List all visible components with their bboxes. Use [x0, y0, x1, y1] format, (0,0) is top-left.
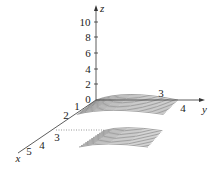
x-tick-3: 3 [54, 131, 60, 143]
z-tick-2: 2 [85, 78, 91, 90]
z-tick-10: 10 [80, 16, 92, 28]
z-axis-label: z [99, 2, 105, 14]
y-axis-label: y [201, 103, 207, 115]
x-tick-2: 2 [63, 109, 69, 121]
x-axis-label: x [15, 152, 21, 164]
x-tick-4: 4 [39, 139, 45, 151]
z-axis: z 0 2 4 6 8 10 [80, 2, 106, 105]
z-tick-4: 4 [85, 63, 91, 75]
surface-plot-3d: z 0 2 4 6 8 10 y 3 4 1 2 3 4 5 x [0, 0, 219, 171]
x-tick-1: 1 [74, 100, 80, 112]
z-tick-6: 6 [85, 47, 91, 59]
x-tick-5: 5 [26, 145, 32, 157]
z-tick-0: 0 [85, 93, 91, 105]
y-tick-4: 4 [180, 102, 186, 114]
z-tick-8: 8 [85, 31, 91, 43]
y-axis: y 3 4 [96, 87, 207, 115]
